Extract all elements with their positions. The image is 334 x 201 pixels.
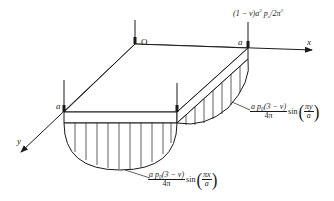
x-axis-label: x: [307, 38, 311, 47]
origin-label: O: [141, 38, 148, 47]
corner-force-a-x: [247, 22, 250, 48]
corner-x-label: a: [238, 38, 243, 47]
edge-reaction-y-formula: a p₀(3 − ν) 4π sin ( πy a ): [250, 103, 319, 121]
corner-force-label: (1 − ν)a2 po/2π2: [233, 8, 283, 19]
edge-reaction-x-formula: a p₀(3 − ν) 4π sin ( πx a ): [148, 171, 217, 189]
corner-force-origin: [134, 20, 137, 44]
y-axis-label: y: [17, 137, 21, 146]
corner-force-a-y: [63, 80, 66, 112]
corner-y-label: a: [56, 102, 61, 111]
plate-front-face: [64, 112, 177, 123]
